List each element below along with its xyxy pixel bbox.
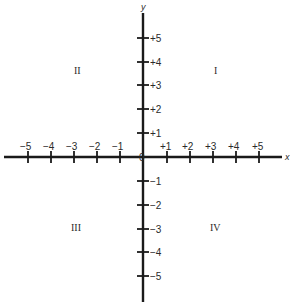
y-tick-label: −4 [150, 247, 162, 258]
y-tick-label: +4 [150, 57, 162, 68]
x-axis-label: x [284, 152, 290, 162]
x-tick-label: +1 [160, 141, 172, 152]
x-tick-label: −4 [43, 141, 55, 152]
quadrant-label-iii: III [71, 222, 81, 233]
y-tick-label: +2 [150, 104, 162, 115]
y-tick-label: −2 [150, 200, 162, 211]
y-tick-label: −1 [150, 176, 162, 187]
coordinate-plane: x y 0 −5 −4 −3 −2 −1 +1 +2 +3 +4 +5 [0, 0, 290, 302]
x-tick-label: −2 [89, 141, 101, 152]
quadrant-label-ii: II [74, 65, 81, 76]
x-tick-label: −3 [66, 141, 78, 152]
x-tick-label: +2 [182, 141, 194, 152]
y-axis-label: y [140, 2, 146, 12]
x-tick-label: +4 [228, 141, 240, 152]
y-tick-label: +1 [150, 128, 162, 139]
x-tick-label: +3 [205, 141, 217, 152]
y-tick-label: +5 [150, 33, 162, 44]
x-tick-label: −5 [20, 141, 32, 152]
quadrant-label-iv: IV [210, 222, 221, 233]
y-tick-label: +3 [150, 80, 162, 91]
y-tick-label: −3 [150, 224, 162, 235]
x-tick-label: +5 [252, 141, 264, 152]
origin-label: 0 [139, 152, 145, 163]
x-tick-label: −1 [112, 141, 124, 152]
y-tick-label: −5 [150, 271, 162, 282]
quadrant-label-i: I [214, 65, 217, 76]
